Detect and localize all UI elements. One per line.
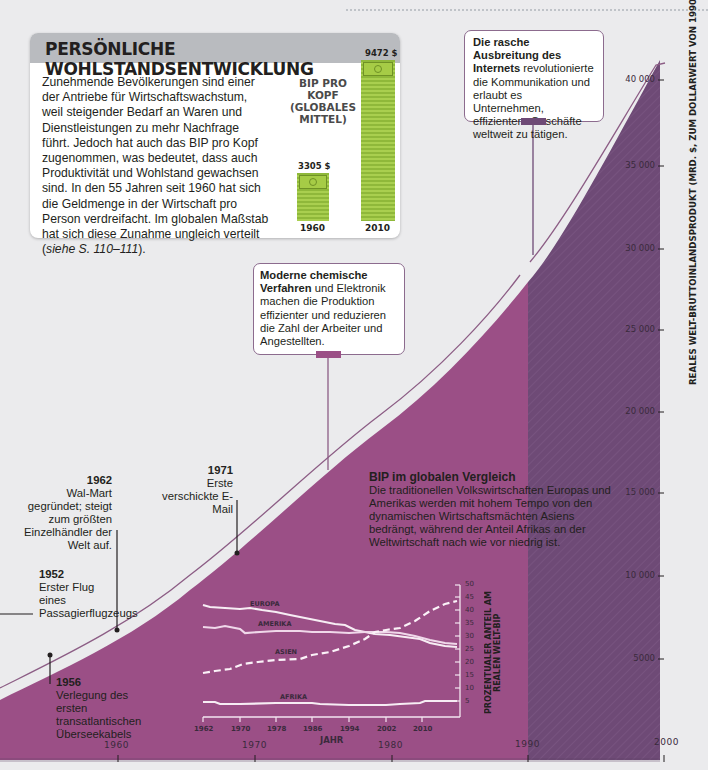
inset-ytick: 15	[465, 671, 474, 679]
y-tick-label: 5000	[595, 653, 655, 663]
y-tick-label: 10 000	[595, 570, 655, 580]
callout-chemistry: Moderne chemische Verfahren und Elektron…	[253, 263, 405, 355]
inset-ytick: 40	[465, 606, 474, 614]
x-tick-label: 1970	[242, 740, 267, 750]
bar-value-2010: 9472 $	[365, 48, 398, 58]
inset-y-axis-label: PROZENTUALER ANTEIL AM REALEN WELT-BIP	[484, 590, 502, 715]
event-1971-email: 1971Erste verschickte E-Mail	[155, 464, 233, 516]
x-tick-label: 1960	[104, 740, 129, 750]
inset-ytick: 20	[465, 658, 474, 666]
inset-xtick: 1970	[231, 725, 250, 733]
callout-tab	[316, 351, 341, 358]
inset-ytick: 10	[465, 684, 474, 692]
event-1952-passenger-flight: 1952Erster Flug eines Passagierflugzeugs	[39, 568, 101, 620]
label-afrika: AFRIKA	[280, 693, 307, 701]
gdp-comparison-text: BIP im globalen VergleichDie traditionel…	[369, 471, 614, 549]
money-stack-2010-icon	[361, 60, 395, 221]
label-amerika: AMERIKA	[258, 620, 291, 628]
event-1962-walmart: 1962Wal-Mart gegründet; steigt zum größt…	[10, 474, 112, 552]
label-europa: EUROPA	[250, 600, 279, 608]
inset-ytick: 45	[465, 593, 474, 601]
inset-xtick: 1986	[303, 725, 322, 733]
x-tick-label: 2000	[654, 737, 679, 747]
bar-year-2010: 2010	[365, 223, 390, 233]
inset-x-axis-label: JAHR	[320, 735, 343, 745]
y-tick-label: 40 000	[595, 74, 655, 84]
inset-xtick: 1978	[267, 725, 286, 733]
money-stack-1960-icon	[297, 173, 329, 221]
callout-internet: Die rasche Ausbreitung des Internets rev…	[464, 30, 604, 122]
wealth-development-panel: PERSÖNLICHE WOHLSTANDSENTWICKLUNG Zunehm…	[30, 33, 400, 238]
x-tick-label: 1990	[515, 739, 540, 749]
label-asien: ASIEN	[275, 648, 297, 656]
panel-body-text: Zunehmende Bevölkerungen sind einer der …	[42, 75, 270, 257]
inset-xtick: 1994	[340, 725, 359, 733]
inset-xtick: 2010	[413, 725, 432, 733]
event-1956-transatlantic-cable: 1956Verlegung des ersten transatlantisch…	[56, 676, 156, 741]
panel-title: PERSÖNLICHE WOHLSTANDSENTWICKLUNG	[30, 33, 400, 63]
inset-ytick: 35	[465, 619, 474, 627]
inset-ytick: 30	[465, 632, 474, 640]
bip-per-capita-label: BIP PRO KOPF (GLOBALES MITTEL)	[288, 77, 358, 125]
y-tick-label: 30 000	[595, 243, 655, 253]
bar-year-1960: 1960	[300, 223, 325, 233]
inset-xtick: 1962	[194, 725, 213, 733]
x-tick-label: 1980	[378, 740, 403, 750]
callout-tab	[521, 118, 546, 125]
y-tick-label: 35 000	[595, 160, 655, 170]
inset-xtick: 2002	[377, 725, 396, 733]
bar-value-1960: 3305 $	[298, 161, 331, 171]
inset-ytick: 5	[465, 697, 469, 705]
inset-ytick: 50	[465, 580, 474, 588]
y-tick-label: 20 000	[595, 406, 655, 416]
inset-ytick: 25	[465, 645, 474, 653]
y-tick-label: 25 000	[595, 324, 655, 334]
